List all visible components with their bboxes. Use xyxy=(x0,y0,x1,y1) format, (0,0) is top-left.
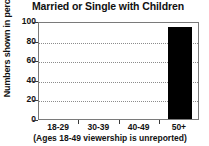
x-axis-tick-label: 40-49 xyxy=(119,122,159,132)
chart-title: Married or Single with Children xyxy=(18,0,198,13)
y-axis-tick-mark xyxy=(33,120,38,121)
bar xyxy=(168,27,191,119)
x-axis-tick-label: 50+ xyxy=(159,122,199,132)
bar-chart: Married or Single with Children Numbers … xyxy=(0,0,209,146)
x-axis-tick-label: 30-39 xyxy=(78,122,118,132)
chart-caption: (Ages 18-49 viewership is unreported) xyxy=(20,133,200,143)
x-axis-tick-label: 18-29 xyxy=(38,122,78,132)
plot-area xyxy=(38,22,199,120)
